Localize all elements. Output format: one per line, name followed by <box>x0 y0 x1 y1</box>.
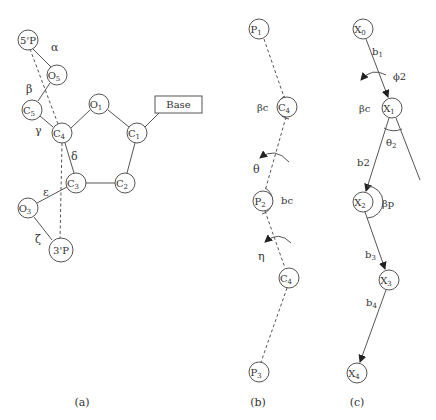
label-theta2: θ2 <box>386 137 397 150</box>
node-c4-lower: C4 <box>279 268 299 288</box>
panel-a-caption: (a) <box>74 396 89 409</box>
virtual-bond-p1-c4 <box>264 39 284 97</box>
node-p1: P1 <box>249 19 269 39</box>
atom-o1: O1 <box>89 94 109 114</box>
atom-5p: 5'P <box>18 30 38 50</box>
nucleotide-backbone-figure: Base 5'P O5 C5 C4 O1 C1 C2 <box>0 0 436 420</box>
phi2-rotation-arrow <box>361 72 386 80</box>
node-p2: P2 <box>253 191 273 211</box>
label-theta: θ <box>253 163 260 176</box>
bond-c1-base <box>145 112 160 127</box>
node-x2: X2 <box>353 192 373 212</box>
node-x0: X0 <box>353 19 373 39</box>
torsion-epsilon: ε <box>43 186 49 199</box>
virtual-bond-c4-p3 <box>261 288 287 362</box>
label-beta-c: βc <box>257 102 269 113</box>
svg-text:5'P: 5'P <box>20 35 36 46</box>
label-b1: b1 <box>372 46 383 59</box>
bond-c4-o1 <box>71 110 90 128</box>
atom-c1: C1 <box>127 123 147 143</box>
atom-c3: C3 <box>66 173 86 193</box>
panel-a-nucleotide: Base 5'P O5 C5 C4 O1 C1 C2 <box>18 30 202 409</box>
atom-o5: O5 <box>47 65 67 85</box>
node-x4: X4 <box>347 363 367 383</box>
panel-b-virtual-bond-chain: P1 C4 P2 C4 P3 βc θ bc η (b) <box>249 19 299 409</box>
label-b3: b3 <box>365 249 376 262</box>
virtual-bond-c4-p3 <box>60 143 62 240</box>
theta-rotation-arrow <box>260 153 289 162</box>
bond-c5-c4 <box>40 116 53 127</box>
base-box: Base <box>155 96 202 113</box>
label-beta-c: βc <box>359 103 371 114</box>
torsion-alpha: α <box>51 41 59 54</box>
atom-o3: O3 <box>18 198 38 218</box>
label-beta-p: βp <box>382 198 394 209</box>
torsion-gamma: γ <box>35 124 42 137</box>
bond-o1-c1 <box>108 110 129 127</box>
label-eta: η <box>258 250 265 263</box>
bond-p5-o5 <box>33 49 51 67</box>
torsion-delta: δ <box>71 150 78 163</box>
node-c4-upper: C4 <box>277 97 297 117</box>
eta-rotation-arrow <box>265 236 291 243</box>
torsion-zeta: ζ <box>35 233 41 246</box>
bond-b4 <box>360 290 386 362</box>
svg-text:3'P: 3'P <box>53 245 69 256</box>
panel-b-caption: (b) <box>250 396 266 409</box>
label-phi2: ϕ2 <box>393 71 406 82</box>
node-x1: X1 <box>382 98 402 118</box>
atom-c4: C4 <box>52 123 72 143</box>
label-b4: b4 <box>366 297 377 310</box>
bond-c1-c2 <box>127 143 135 173</box>
extension-line <box>396 118 420 180</box>
bond-c3-o3 <box>37 187 67 203</box>
base-label: Base <box>166 99 190 110</box>
atom-c2: C2 <box>115 173 135 193</box>
node-x3: X3 <box>379 270 399 290</box>
theta2-angle-arc <box>384 128 402 131</box>
atom-c5: C5 <box>22 100 42 120</box>
label-bc: bc <box>281 195 293 206</box>
atom-3p: 3'P <box>49 238 73 262</box>
label-b2: b2 <box>357 157 370 168</box>
node-p3: P3 <box>249 362 269 382</box>
panel-c-coarse-grained-chain: X0 X1 X2 X3 X4 b1 ϕ2 βc θ2 b2 βp b3 b4 (… <box>347 19 420 409</box>
torsion-beta: β <box>26 83 32 96</box>
panel-c-caption: (c) <box>350 396 365 409</box>
